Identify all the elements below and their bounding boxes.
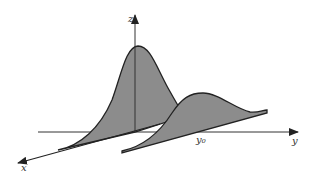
gaussian-3d-diagram: z y x y₀ <box>0 0 317 185</box>
z-axis-label: z <box>127 13 134 24</box>
x-axis-label: x <box>21 162 27 173</box>
y0-label: y₀ <box>195 134 206 145</box>
y-axis-label: y <box>291 135 298 146</box>
x-axis-line <box>18 124 160 163</box>
diagram-canvas: z y x y₀ <box>0 0 317 185</box>
